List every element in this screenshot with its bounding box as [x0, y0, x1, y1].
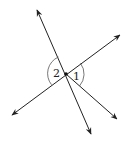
intersection-point: [64, 72, 68, 76]
angle-1-arc: [80, 63, 85, 86]
angle-1-label: 1: [73, 70, 80, 83]
angle-diagram: 2 1: [0, 0, 127, 144]
angle-2-label: 2: [53, 67, 60, 80]
diagram-svg: 2 1: [0, 0, 127, 144]
line-a: [37, 10, 91, 134]
